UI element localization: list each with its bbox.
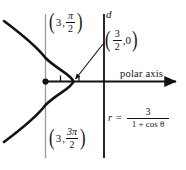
polar-conic-figure: ( 3 , π 2 ) ( 3 2 , 0 ) ( 3 xyxy=(0,0,186,170)
pole-point xyxy=(42,78,48,84)
equation-lhs: r xyxy=(108,113,112,124)
figure-canvas xyxy=(0,0,186,170)
left-paren: ( xyxy=(105,31,111,50)
fraction-denominator: 2 xyxy=(114,41,121,52)
r-fraction: 3 2 xyxy=(113,29,122,52)
equation-fraction: 3 1 + cos θ xyxy=(127,107,169,129)
comma: , xyxy=(62,133,65,144)
vertex-leader-arrow xyxy=(76,44,104,79)
fraction-numerator: 3π xyxy=(66,127,78,138)
left-paren: ( xyxy=(49,129,55,148)
fraction-numerator: π xyxy=(67,11,74,22)
point-label-bottom: ( 3 , 3π 2 ) xyxy=(48,127,87,150)
left-paren: ( xyxy=(49,13,55,32)
theta-value: 0 xyxy=(125,35,131,46)
theta-fraction: π 2 xyxy=(66,11,75,34)
coordinate-pair-top: ( 3 , π 2 ) xyxy=(48,11,84,34)
polar-equation: r = 3 1 + cos θ xyxy=(108,107,170,129)
fraction-denominator: 2 xyxy=(67,23,74,34)
r-value: 3 xyxy=(56,133,62,144)
right-paren: ) xyxy=(132,31,138,50)
comma: , xyxy=(62,17,65,28)
fraction-denominator: 2 xyxy=(68,139,75,150)
coordinate-pair-bottom: ( 3 , 3π 2 ) xyxy=(48,127,87,150)
r-value: 3 xyxy=(56,17,62,28)
coordinate-pair-vertex: ( 3 2 , 0 ) xyxy=(104,29,139,52)
right-paren: ) xyxy=(77,13,83,32)
polar-axis-label: polar axis xyxy=(120,69,163,80)
equals-sign: = xyxy=(116,113,122,124)
right-paren: ) xyxy=(80,129,86,148)
directrix-label: d xyxy=(106,9,112,20)
fraction-numerator: 3 xyxy=(145,107,152,118)
point-label-vertex: ( 3 2 , 0 ) xyxy=(104,29,139,52)
point-label-top: ( 3 , π 2 ) xyxy=(48,11,84,34)
theta-fraction: 3π 2 xyxy=(66,127,78,150)
fraction-denominator: 1 + cos θ xyxy=(131,119,166,129)
fraction-numerator: 3 xyxy=(114,29,121,40)
